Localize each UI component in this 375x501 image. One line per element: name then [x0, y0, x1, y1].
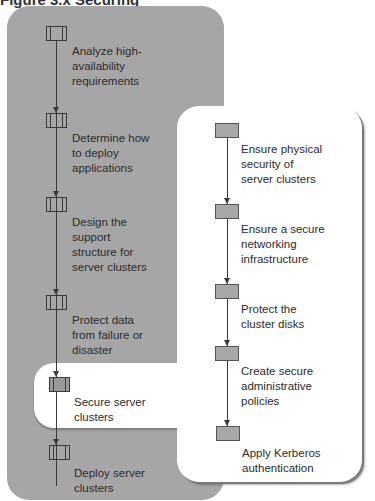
substep-label-disks: Protect the cluster disks — [241, 302, 304, 332]
substep-label-admin: Create secure administrative policies — [241, 364, 313, 409]
step-box-icon — [49, 445, 70, 460]
substep-label-physical: Ensure physical security of server clust… — [241, 142, 322, 187]
substep-box-icon — [215, 123, 239, 138]
step-label-protect-data: Protect data from failure or disaster — [72, 313, 143, 358]
substep-box-icon — [216, 426, 240, 441]
step-box-active-icon — [49, 377, 70, 392]
step-box-icon — [46, 26, 67, 41]
step-label-secure: Secure server clusters — [74, 395, 146, 425]
step-label-determine: Determine how to deploy applications — [72, 131, 149, 176]
substep-box-icon — [215, 204, 239, 219]
substep-box-icon — [215, 284, 239, 299]
step-label-design: Design the support structure for server … — [72, 215, 147, 275]
step-box-icon — [46, 295, 67, 310]
substep-label-network: Ensure a secure networking infrastructur… — [241, 222, 325, 267]
step-box-icon — [46, 197, 67, 212]
substep-label-kerberos: Apply Kerberos authentication — [242, 446, 321, 476]
step-label-deploy: Deploy server clusters — [74, 466, 145, 496]
highlight-connector — [176, 363, 188, 428]
step-box-icon — [46, 113, 67, 128]
step-label-analyze: Analyze high- availability requirements — [72, 44, 142, 89]
substep-box-icon — [215, 346, 239, 361]
